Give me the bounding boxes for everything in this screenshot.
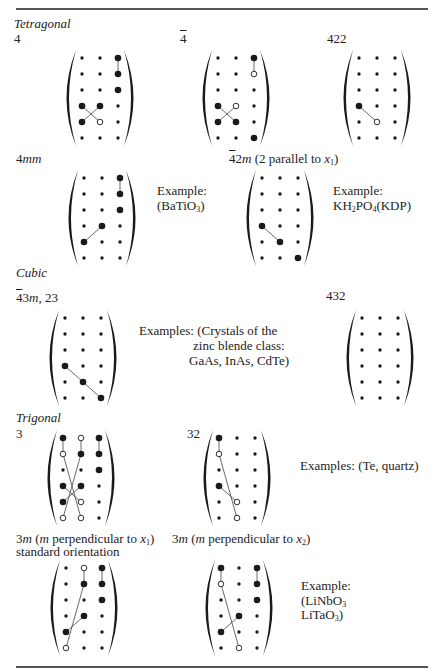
zero-element-dot bbox=[255, 614, 258, 617]
zero-element-dot bbox=[252, 88, 255, 91]
zero-element-dot bbox=[378, 364, 381, 367]
zero-element-dot bbox=[237, 598, 240, 601]
zero-element-dot bbox=[378, 380, 381, 383]
zero-element-dot bbox=[98, 56, 101, 59]
opposite-sign-element-circle bbox=[374, 119, 380, 125]
zero-element-dot bbox=[396, 316, 399, 319]
zero-element-dot bbox=[255, 646, 258, 649]
zero-element-dot bbox=[393, 72, 396, 75]
zero-element-dot bbox=[296, 240, 299, 243]
zero-element-dot bbox=[396, 380, 399, 383]
zero-element-dot bbox=[357, 136, 360, 139]
zero-element-dot bbox=[396, 348, 399, 351]
zero-element-dot bbox=[63, 396, 66, 399]
nonzero-element-dot bbox=[295, 255, 302, 262]
tensor-matrix-tetragonal-4 bbox=[67, 50, 134, 146]
zero-element-dot bbox=[82, 224, 85, 227]
opposite-sign-element-circle bbox=[234, 499, 240, 505]
zero-element-dot bbox=[82, 256, 85, 259]
zero-element-dot bbox=[116, 120, 119, 123]
right-bracket bbox=[124, 50, 134, 146]
zero-element-dot bbox=[217, 500, 220, 503]
nonzero-element-dot bbox=[251, 55, 258, 62]
zero-element-dot bbox=[100, 256, 103, 259]
nonzero-element-dot bbox=[81, 613, 88, 620]
zero-element-dot bbox=[253, 516, 256, 519]
right-bracket bbox=[304, 170, 314, 266]
bottom-rule bbox=[16, 666, 428, 668]
zero-element-dot bbox=[99, 364, 102, 367]
right-bracket bbox=[261, 430, 271, 526]
zero-element-dot bbox=[255, 630, 258, 633]
opposite-sign-element-circle bbox=[81, 565, 87, 571]
zero-element-dot bbox=[99, 332, 102, 335]
tensor-matrix-trigonal-3m-perp-x1 bbox=[51, 560, 118, 656]
zero-element-dot bbox=[97, 484, 100, 487]
zero-element-dot bbox=[378, 332, 381, 335]
zero-element-dot bbox=[393, 120, 396, 123]
tensor-matrix-cubic-43m-23 bbox=[50, 310, 117, 406]
nonzero-element-dot bbox=[117, 191, 124, 198]
zero-element-dot bbox=[235, 436, 238, 439]
zero-element-dot bbox=[357, 56, 360, 59]
zero-element-dot bbox=[375, 56, 378, 59]
figure-page: Tetragonal 4 4 422 4mm Example: (BaTiO3)… bbox=[0, 0, 435, 670]
nonzero-element-dot bbox=[78, 451, 85, 458]
opposite-sign-element-circle bbox=[236, 645, 242, 651]
zero-element-dot bbox=[118, 224, 121, 227]
left-bracket bbox=[206, 560, 216, 656]
zero-element-dot bbox=[64, 598, 67, 601]
tensor-matrix-tetragonal-42m bbox=[247, 170, 314, 266]
tensor-matrix-tetragonal-422 bbox=[344, 50, 411, 146]
right-bracket bbox=[263, 560, 273, 656]
zero-element-dot bbox=[64, 582, 67, 585]
zero-element-dot bbox=[64, 566, 67, 569]
zero-element-dot bbox=[234, 88, 237, 91]
left-bracket bbox=[67, 50, 77, 146]
zero-element-dot bbox=[99, 316, 102, 319]
zero-element-dot bbox=[357, 72, 360, 75]
zero-element-dot bbox=[296, 208, 299, 211]
right-bracket bbox=[404, 310, 414, 406]
zero-element-dot bbox=[375, 104, 378, 107]
element-connector-line bbox=[65, 366, 83, 382]
zero-element-dot bbox=[360, 364, 363, 367]
zero-element-dot bbox=[82, 192, 85, 195]
zero-element-dot bbox=[378, 348, 381, 351]
zero-element-dot bbox=[81, 348, 84, 351]
zero-element-dot bbox=[81, 396, 84, 399]
left-bracket bbox=[50, 310, 60, 406]
opposite-sign-element-circle bbox=[63, 645, 69, 651]
nonzero-element-dot bbox=[99, 565, 106, 572]
nonzero-element-dot bbox=[60, 435, 67, 442]
nonzero-element-dot bbox=[115, 71, 122, 78]
nonzero-element-dot bbox=[79, 119, 86, 126]
zero-element-dot bbox=[99, 348, 102, 351]
right-bracket bbox=[107, 310, 117, 406]
zero-element-dot bbox=[235, 452, 238, 455]
zero-element-dot bbox=[216, 88, 219, 91]
zero-element-dot bbox=[100, 630, 103, 633]
tensor-matrices-layer bbox=[0, 0, 435, 670]
opposite-sign-element-circle bbox=[60, 451, 66, 457]
nonzero-element-dot bbox=[96, 467, 103, 474]
nonzero-element-dot bbox=[236, 613, 243, 620]
zero-element-dot bbox=[63, 348, 66, 351]
nonzero-element-dot bbox=[218, 565, 225, 572]
nonzero-element-dot bbox=[81, 239, 88, 246]
right-bracket bbox=[126, 170, 136, 266]
zero-element-dot bbox=[253, 436, 256, 439]
left-bracket bbox=[344, 50, 354, 146]
tensor-matrix-tetragonal-4bar bbox=[203, 50, 270, 146]
zero-element-dot bbox=[82, 176, 85, 179]
tensor-matrix-trigonal-32 bbox=[204, 430, 271, 526]
left-bracket bbox=[204, 430, 214, 526]
zero-element-dot bbox=[278, 224, 281, 227]
zero-element-dot bbox=[79, 468, 82, 471]
nonzero-element-dot bbox=[78, 483, 85, 490]
left-bracket bbox=[48, 430, 58, 526]
nonzero-element-dot bbox=[98, 395, 105, 402]
nonzero-element-dot bbox=[62, 363, 69, 370]
tensor-matrix-cubic-432 bbox=[347, 310, 414, 406]
zero-element-dot bbox=[253, 484, 256, 487]
